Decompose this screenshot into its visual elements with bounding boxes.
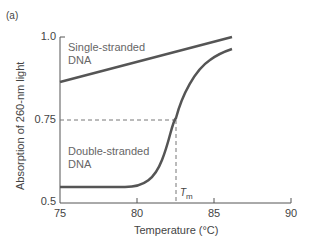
x-tick-label: 80 [122, 207, 152, 219]
y-tick-label: 1.0 [26, 30, 56, 42]
y-axis-label: Absorption of 260-nm light [14, 62, 26, 190]
double-stranded-label: Double-stranded DNA [68, 145, 149, 171]
y-tick-label: 0.75 [26, 113, 56, 125]
x-tick-label: 75 [45, 207, 75, 219]
tm-label: Tm [180, 187, 193, 201]
x-axis-label: Temperature (°C) [134, 224, 218, 236]
y-tick-label: 0.5 [26, 195, 56, 207]
x-tick-label: 90 [276, 207, 306, 219]
x-tick-label: 85 [199, 207, 229, 219]
single-stranded-label: Single-stranded DNA [68, 41, 145, 67]
